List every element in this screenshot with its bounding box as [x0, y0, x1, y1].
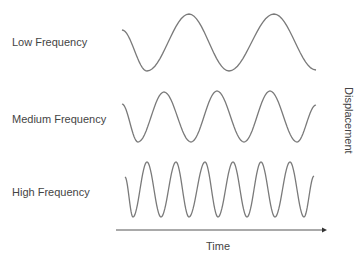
time-axis-arrowhead-icon: [322, 228, 327, 233]
medium-frequency-wave: [122, 91, 316, 142]
high-frequency-label: High Frequency: [12, 187, 90, 198]
high-frequency-wave: [125, 162, 314, 217]
medium-frequency-label: Medium Frequency: [12, 114, 106, 125]
time-axis-label: Time: [0, 241, 360, 252]
low-frequency-wave: [122, 14, 316, 71]
displacement-axis-label: Displacement: [343, 87, 354, 154]
low-frequency-label: Low Frequency: [12, 37, 87, 48]
